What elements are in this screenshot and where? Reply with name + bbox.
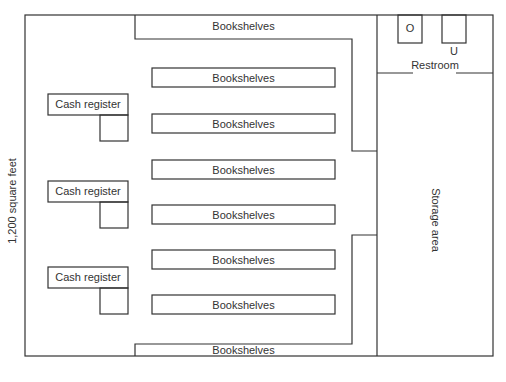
cash-register-1-label: Cash register [48, 98, 128, 110]
restroom-label: Restroom [400, 59, 470, 71]
cash-register-2-label: Cash register [48, 185, 128, 197]
fixture-o-label: O [398, 22, 422, 34]
top-bookshelf-label: Bookshelves [135, 20, 352, 32]
cash-register-3-label: Cash register [48, 271, 128, 283]
fixture-u-outline [442, 15, 466, 43]
storage-area-label: Storage area [430, 180, 442, 260]
fixture-u-label: U [442, 45, 466, 57]
shelf-row-2-label: Bookshelves [152, 118, 335, 130]
shelf-row-6-label: Bookshelves [152, 299, 335, 311]
cash-register-1-side [100, 115, 128, 141]
area-size-label: 1,200 square feet [6, 151, 18, 251]
shelf-row-5-label: Bookshelves [152, 254, 335, 266]
shelf-row-3-label: Bookshelves [152, 164, 335, 176]
bottom-bookshelf-label: Bookshelves [135, 344, 352, 356]
cash-register-2-side [100, 202, 128, 228]
shelf-row-1-label: Bookshelves [152, 72, 335, 84]
cash-register-3-side [100, 288, 128, 314]
shelf-row-4-label: Bookshelves [152, 209, 335, 221]
